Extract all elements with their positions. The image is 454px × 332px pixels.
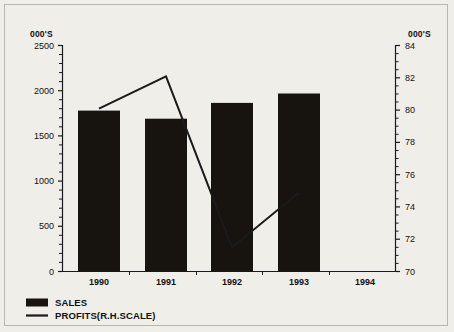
x-axis-label-1992: 1992: [222, 277, 242, 287]
left-axis-unit-label: 000'S: [30, 29, 53, 39]
left-axis-tick-label-2000: 2000: [34, 86, 54, 96]
x-axis-label-1994: 1994: [355, 277, 375, 287]
left-axis-tick-label-0: 0: [49, 267, 54, 277]
chart-container: 000'S 000'S: [0, 0, 454, 332]
x-axis-label-1990: 1990: [89, 277, 109, 287]
bar-series-sales: [78, 94, 320, 272]
left-axis-tick-label-500: 500: [39, 221, 54, 231]
right-axis-tick-label-74: 74: [405, 202, 415, 212]
legend-swatch-sales: [26, 299, 48, 307]
left-axis-major-ticks: [58, 46, 62, 272]
left-axis-minor-ticks: [59, 55, 62, 263]
legend-label-profits: PROFITS(R.H.SCALE): [55, 310, 156, 321]
chart-legend: SALES PROFITS(R.H.SCALE): [26, 297, 156, 321]
legend-label-sales: SALES: [55, 297, 87, 308]
left-axis-tick-label-1000: 1000: [34, 176, 54, 186]
right-axis-tick-label-76: 76: [405, 170, 415, 180]
left-axis-tick-label-1500: 1500: [34, 131, 54, 141]
chart-plot-area: 000'S 000'S: [0, 0, 454, 332]
bar-1991[interactable]: [145, 119, 187, 272]
bar-1990[interactable]: [78, 111, 120, 272]
bar-1993[interactable]: [278, 94, 320, 272]
right-axis-tick-label-80: 80: [405, 105, 415, 115]
x-axis-label-1991: 1991: [156, 277, 176, 287]
x-axis-label-1993: 1993: [289, 277, 309, 287]
right-axis-tick-label-84: 84: [405, 41, 415, 51]
line-series-profits[interactable]: [99, 76, 299, 247]
right-axis-tick-label-72: 72: [405, 234, 415, 244]
left-axis-tick-label-2500: 2500: [34, 41, 54, 51]
right-axis-tick-label-82: 82: [405, 73, 415, 83]
right-axis-unit-label: 000'S: [408, 29, 431, 39]
right-axis-tick-label-78: 78: [405, 137, 415, 147]
right-axis-minor-ticks: [396, 54, 399, 264]
right-axis-tick-label-70: 70: [405, 267, 415, 277]
